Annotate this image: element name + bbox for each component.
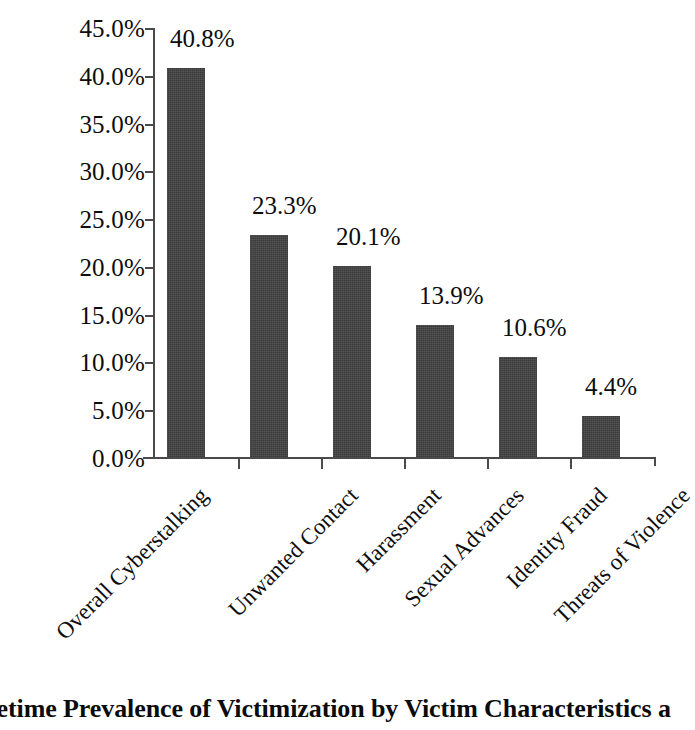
y-axis-tick-label: 15.0% <box>7 303 145 328</box>
bar-value-label: 40.8% <box>170 26 235 51</box>
bar-value-label: 4.4% <box>585 374 637 399</box>
x-axis-tick <box>321 459 323 469</box>
y-axis-tick-label: 5.0% <box>7 398 145 423</box>
y-axis-tick-label: 0.0% <box>7 446 145 471</box>
x-axis-tick <box>238 459 240 469</box>
y-axis-tick-label: 30.0% <box>7 159 145 184</box>
bar-identity-fraud <box>499 357 537 458</box>
y-axis-tick-label: 20.0% <box>7 255 145 280</box>
figure-caption: fetime Prevalence of Victimization by Vi… <box>0 694 695 724</box>
x-axis-tick <box>487 459 489 469</box>
bar-sexual-advances <box>416 325 454 458</box>
bar-threats-of-violence <box>582 416 620 458</box>
y-axis-tick-label: 45.0% <box>7 16 145 41</box>
y-axis-tick-label: 40.0% <box>7 64 145 89</box>
bar-overall-cyberstalking <box>167 68 205 458</box>
x-axis-tick <box>404 459 406 469</box>
bar-value-label: 13.9% <box>419 283 484 308</box>
x-axis-tick <box>570 459 572 469</box>
bar-unwanted-contact <box>250 235 288 458</box>
bar-value-label: 23.3% <box>252 193 317 218</box>
y-axis-tick-label: 25.0% <box>7 207 145 232</box>
x-axis-end-tick <box>654 457 656 466</box>
bar-value-label: 10.6% <box>502 315 567 340</box>
plot-area <box>155 28 655 458</box>
y-axis-tick-label: 10.0% <box>7 350 145 375</box>
y-axis-tick-label: 35.0% <box>7 112 145 137</box>
bar-harassment <box>333 266 371 458</box>
bar-value-label: 20.1% <box>336 224 401 249</box>
